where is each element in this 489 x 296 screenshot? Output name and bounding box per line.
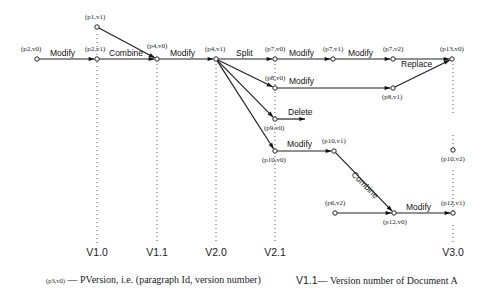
edges: ModifyCombineModifySplitModifyModifyRepl… <box>39 28 450 213</box>
edge-label: Delete <box>288 107 313 117</box>
node-circle-icon <box>391 86 395 90</box>
edge-arrow <box>218 61 274 118</box>
version-history-diagram: ModifyCombineModifySplitModifyModifyRepl… <box>0 0 489 296</box>
node-circle-icon <box>273 149 277 153</box>
node-label: (p7,v0) <box>265 45 286 53</box>
node-label: (p8,v0) <box>265 74 286 82</box>
node-circle-icon <box>95 57 99 61</box>
node-circle-icon <box>450 57 454 61</box>
node-label: (p1,v1) <box>85 13 106 21</box>
legend-version-sample: V1.1 <box>296 274 318 286</box>
node-label: (p12,v0) <box>383 218 408 226</box>
node-circle-icon <box>451 211 455 215</box>
node-label: (p8,v1) <box>382 93 403 101</box>
node-circle-icon <box>273 86 277 90</box>
node-circle-icon <box>155 57 159 61</box>
pversion-nodes: (p2,v0)(p1,v1)(p2,v1)(p4,v0)(p4,v1)(p7,v… <box>21 13 466 226</box>
node-label: (p12,v1) <box>441 199 466 207</box>
edge-label: Combine <box>350 169 381 200</box>
legend-pversion: (p3,v0) — PVersion, i.e. (paragraph Id, … <box>46 274 261 285</box>
version-label: V1.0 <box>86 246 108 258</box>
node-circle-icon <box>273 57 277 61</box>
node-label: (p4,v0) <box>147 42 168 50</box>
node-label: (p13,v0) <box>440 45 465 53</box>
node-label: (p7,v2) <box>383 45 404 53</box>
node-circle-icon <box>35 57 39 61</box>
edge-label: Split <box>236 48 253 58</box>
node-label: (p2,v1) <box>85 45 106 53</box>
legend-version-text: Version number of Document A <box>330 275 458 286</box>
version-label: V2.0 <box>205 246 227 258</box>
edge-label: Modify <box>287 139 313 149</box>
pversion-node: (p2,v0) <box>21 45 42 61</box>
node-label: (p10,v2) <box>441 155 466 163</box>
node-label: (p2,v0) <box>21 45 42 53</box>
edge-label: Modify <box>170 48 196 58</box>
node-label: (p10,v1) <box>322 137 347 145</box>
node-circle-icon <box>214 57 218 61</box>
version-labels: V1.0V1.1V2.0V2.1V3.0 <box>86 246 464 258</box>
node-label: (p6,v2) <box>325 199 346 207</box>
node-circle-icon <box>331 57 335 61</box>
edge-label: Replace <box>401 59 432 69</box>
edge-label: Modify <box>348 48 374 58</box>
pversion-node: (p4,v0) <box>147 42 168 61</box>
node-circle-icon <box>95 25 99 29</box>
edge-label: Modify <box>289 76 315 86</box>
node-label: (p10,v0) <box>262 156 287 164</box>
node-circle-icon <box>333 211 337 215</box>
edge-label: Modify <box>406 202 432 212</box>
legend-version: V1.1— Version number of Document A <box>296 274 458 286</box>
node-label: (p4,v1) <box>205 45 226 53</box>
node-circle-icon <box>391 57 395 61</box>
node-label: (p9,v0) <box>264 124 285 132</box>
node-circle-icon <box>273 117 277 121</box>
legend-dash: — <box>67 274 77 285</box>
node-label: (p7,v1) <box>323 45 344 53</box>
legend-pversion-sample: (p3,v0) <box>46 277 65 284</box>
version-label: V1.1 <box>146 246 168 258</box>
node-circle-icon <box>332 149 336 153</box>
legend-pversion-text: PVersion, i.e. (paragraph Id, version nu… <box>80 274 261 285</box>
version-label: V2.1 <box>264 246 286 258</box>
legend-dash: — <box>318 275 328 286</box>
edge-label: Modify <box>50 48 76 58</box>
node-circle-icon <box>451 148 455 152</box>
version-label: V3.0 <box>442 246 464 258</box>
pversion-node: (p1,v1) <box>85 13 106 29</box>
edge-label: Modify <box>289 48 315 58</box>
pversion-node: (p10,v2) <box>441 148 466 163</box>
node-circle-icon <box>392 211 396 215</box>
